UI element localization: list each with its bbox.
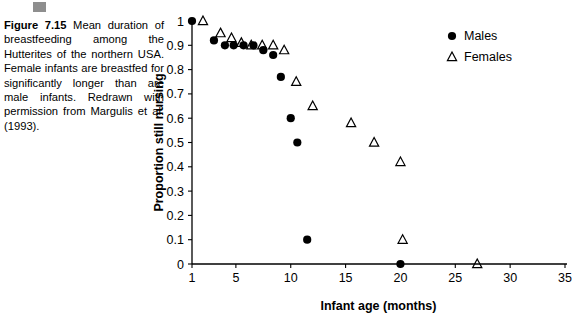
data-point-male [396, 260, 404, 268]
data-point-female [308, 101, 317, 110]
data-point-female [269, 40, 278, 49]
plot-legend: MalesFemales [447, 29, 512, 64]
x-tick-label: 35 [558, 271, 572, 285]
data-point-female [346, 118, 355, 127]
data-point-male [269, 51, 277, 59]
legend-marker-females [447, 52, 456, 61]
y-tick-label: 0 [177, 258, 184, 272]
data-point-female [398, 235, 407, 244]
data-point-female [198, 16, 207, 25]
data-point-male [188, 17, 196, 25]
y-tick-label: 0.6 [167, 112, 184, 126]
y-tick-label: 0.2 [167, 209, 184, 223]
y-tick-label: 0.5 [167, 136, 184, 150]
x-axis-title: Infant age (months) [321, 299, 437, 313]
y-axis-ticks: 00.10.20.30.40.50.60.70.80.91 [167, 15, 192, 272]
data-point-female [473, 259, 482, 268]
data-point-female [292, 77, 301, 86]
data-point-male [303, 236, 311, 244]
data-point-male [287, 114, 295, 122]
x-tick-label: 30 [503, 271, 517, 285]
legend-marker-males [448, 32, 456, 40]
scatter-plot-svg: 00.10.20.30.40.50.60.70.80.91 1510152025… [0, 0, 587, 316]
y-tick-label: 1 [177, 15, 184, 29]
data-point-female [370, 138, 379, 147]
y-tick-label: 0.4 [167, 160, 184, 174]
data-point-female [216, 28, 225, 37]
data-point-female [280, 45, 289, 54]
x-tick-label: 10 [284, 271, 298, 285]
data-point-female [227, 33, 236, 42]
y-tick-label: 0.9 [167, 39, 184, 53]
y-axis-title: Proportion still nursing [152, 73, 166, 211]
data-point-male [277, 73, 285, 81]
data-point-female [396, 157, 405, 166]
y-tick-label: 0.1 [167, 233, 184, 247]
x-axis-ticks: 15101520253035 [189, 264, 572, 285]
data-points [188, 16, 482, 268]
x-tick-label: 1 [189, 271, 196, 285]
data-point-male [210, 36, 218, 44]
figure-plot-area: 00.10.20.30.40.50.60.70.80.91 1510152025… [0, 0, 587, 316]
legend-label-males: Males [464, 29, 497, 43]
x-tick-label: 20 [393, 271, 407, 285]
data-point-male [221, 41, 229, 49]
x-tick-label: 25 [448, 271, 462, 285]
y-tick-label: 0.8 [167, 63, 184, 77]
data-point-male [293, 138, 301, 146]
x-tick-label: 5 [232, 271, 239, 285]
data-point-male [230, 41, 238, 49]
y-tick-label: 0.7 [167, 87, 184, 101]
legend-label-females: Females [464, 50, 512, 64]
x-tick-label: 15 [339, 271, 353, 285]
y-tick-label: 0.3 [167, 185, 184, 199]
